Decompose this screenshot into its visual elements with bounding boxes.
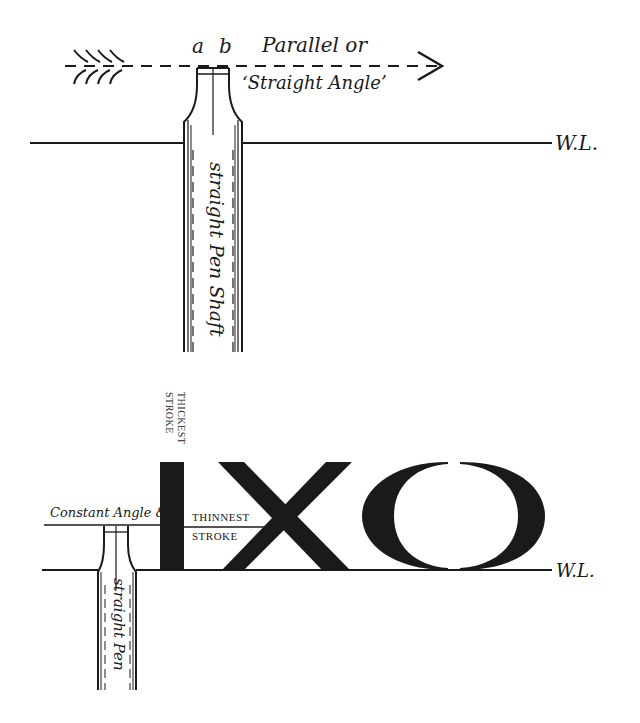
shaft-label: straight Pen Shaft [206, 162, 228, 337]
letter-o [362, 462, 545, 570]
calligraphy-diagram: a b Parallel or ‘Straight Angle’ straigh… [0, 0, 640, 723]
label-a: a [192, 34, 204, 58]
feather-tail-icon [74, 50, 124, 84]
bottom-writing-line-label: W.L. [556, 560, 595, 581]
label-b: b [219, 34, 232, 58]
direction-label-line2: ‘Straight Angle’ [242, 72, 387, 93]
thinnest-label-line2: STROKE [192, 530, 238, 542]
top-writing-line-label: W.L. [555, 131, 598, 155]
thickest-label-line2: STROKE [164, 392, 175, 434]
thinnest-label-line1: THINNEST [192, 511, 250, 523]
constant-angle-label: Constant Angle & [50, 505, 167, 520]
diagram-graphics [0, 0, 640, 723]
direction-label-line1: Parallel or [262, 33, 367, 57]
thickest-label-line1: THICKEST [176, 392, 187, 444]
pen-label: straight Pen [110, 578, 128, 671]
